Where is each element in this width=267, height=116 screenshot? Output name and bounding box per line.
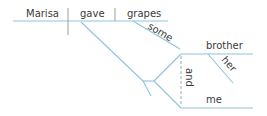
word-conjunction: and	[184, 68, 195, 87]
diagram-lines: Marisa gave grapes some brother her and …	[0, 0, 267, 116]
indirect-object-slant	[81, 22, 143, 81]
fork-upper-branch	[154, 54, 181, 81]
word-indirect-object-2: me	[206, 94, 222, 105]
word-indirect-object-1: brother	[206, 40, 244, 51]
word-direct-object: grapes	[127, 8, 161, 19]
word-subject: Marisa	[26, 8, 59, 19]
word-verb: gave	[80, 8, 105, 19]
word-object-modifier: some	[146, 20, 175, 43]
fork-lower-branch	[154, 81, 181, 108]
indirect-object-slant-extension	[143, 81, 151, 96]
sentence-diagram: Marisa gave grapes some brother her and …	[0, 0, 267, 116]
